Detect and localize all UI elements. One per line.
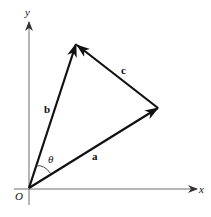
- vector-a-label: a: [92, 150, 98, 162]
- vector-diagram: y x O a b c θ: [0, 0, 211, 217]
- vector-b-label: b: [44, 103, 50, 115]
- angle-arc: [36, 166, 51, 174]
- x-axis-label: x: [198, 183, 204, 195]
- theta-label: θ: [48, 153, 54, 165]
- vector-c-label: c: [121, 64, 126, 76]
- origin-label: O: [15, 190, 23, 202]
- vector-c: [77, 45, 158, 108]
- vector-b: [29, 44, 76, 188]
- vector-a: [29, 108, 158, 188]
- y-axis-label: y: [24, 6, 30, 18]
